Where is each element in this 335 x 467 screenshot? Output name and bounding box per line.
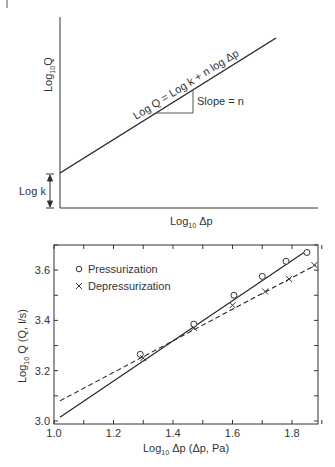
x-tick-label: 1.8: [284, 427, 299, 439]
legend-marker-cross-icon: [76, 283, 82, 289]
figure: Slope = n Log Q = Log k + n log Δp Log k…: [0, 0, 335, 467]
fit-lines: [60, 252, 316, 417]
schematic-chart: Slope = n Log Q = Log k + n log Δp Log k…: [19, 17, 318, 229]
x-axis-label: Log10 Δp (Δp, Pa): [143, 442, 229, 456]
legend: Pressurization Depressurization: [76, 263, 171, 292]
legend-marker-circle-icon: [76, 266, 82, 272]
data-points: [137, 249, 317, 361]
legend-label-depressurization: Depressurization: [88, 280, 171, 292]
circle-marker-icon: [231, 292, 237, 298]
circle-marker-icon: [304, 249, 310, 255]
circle-marker-icon: [259, 273, 265, 279]
cross-marker-icon: [311, 262, 317, 268]
y-tick-label: 3.0: [35, 415, 50, 427]
x-axis-label: Log10 Δp: [170, 215, 213, 229]
y-tick-label: 3.6: [35, 264, 50, 276]
circle-marker-icon: [137, 351, 143, 357]
equation-label: Log Q = Log k + n log Δp: [131, 47, 241, 122]
intercept-label: Log k: [19, 185, 46, 197]
cross-marker-icon: [230, 302, 236, 308]
y-axis-label: Log10 Q (Q, l/s): [16, 309, 30, 383]
y-tick-label: 3.2: [35, 365, 50, 377]
x-tick-label: 1.0: [46, 427, 61, 439]
y-axis-label: Log10Q: [42, 57, 56, 92]
data-chart: 1.01.21.41.61.8 3.03.23.43.6 Pressurizat…: [16, 245, 322, 456]
cross-marker-icon: [262, 288, 268, 294]
intercept-arrow: [46, 174, 54, 208]
legend-label-pressurization: Pressurization: [88, 263, 158, 275]
slope-label: Slope = n: [197, 95, 244, 107]
x-tick-label: 1.4: [165, 427, 180, 439]
circle-marker-icon: [283, 258, 289, 264]
x-tick-label: 1.6: [225, 427, 240, 439]
fit-line-pressurization: [60, 252, 304, 417]
y-tick-label: 3.4: [35, 314, 50, 326]
x-tick-label: 1.2: [106, 427, 121, 439]
cross-marker-icon: [286, 276, 292, 282]
